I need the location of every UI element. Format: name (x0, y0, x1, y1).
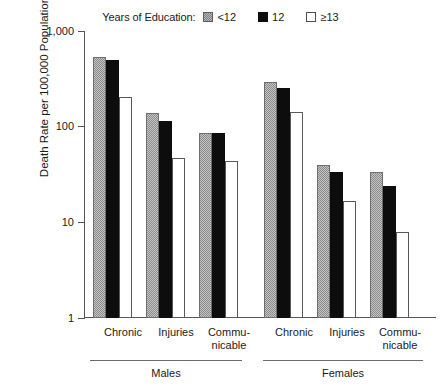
legend-title: Years of Education: (102, 11, 195, 23)
bar-males-injuries-12 (159, 121, 172, 318)
bar-males-chronic-lt12 (93, 57, 106, 318)
bar-females-communicable-12 (383, 186, 396, 318)
bar-males-chronic-gte13 (119, 97, 132, 318)
plot-area (84, 31, 436, 318)
legend-label-lt12: <12 (217, 11, 236, 23)
group-rule-females (263, 360, 423, 361)
bar-females-chronic-12 (277, 88, 290, 318)
y-axis-title: Death Rate per 100,000 Population (38, 0, 50, 217)
legend-label-12: 12 (272, 11, 284, 23)
x-label-females-communicable: Commu- nicable (361, 326, 439, 351)
bar-males-communicable-12 (212, 133, 225, 318)
y-axis: 1,000 100 10 1 Death Rate per 100,000 Po… (0, 31, 84, 319)
group-rule-males (90, 360, 242, 361)
bar-males-injuries-lt12 (146, 113, 159, 318)
bar-females-injuries-gte13 (343, 201, 356, 318)
y-tick-label-10: 10 (62, 216, 74, 228)
legend: Years of Education: <12 12 ≥13 (0, 8, 441, 26)
group-label-females: Females (263, 367, 423, 379)
bar-males-chronic-12 (106, 60, 119, 318)
bar-males-communicable-gte13 (225, 161, 238, 318)
legend-label-gte13: ≥13 (320, 11, 338, 23)
bar-females-injuries-12 (330, 172, 343, 318)
legend-entry-12: 12 (258, 11, 284, 23)
bar-males-injuries-gte13 (172, 158, 185, 318)
group-label-males: Males (90, 367, 242, 379)
legend-entry-gte13: ≥13 (306, 11, 338, 23)
y-tick-label-1000: 1,000 (46, 25, 74, 37)
legend-entry-lt12: <12 (203, 11, 236, 23)
bar-females-communicable-lt12 (370, 172, 383, 318)
bar-females-chronic-gte13 (290, 112, 303, 318)
bar-females-communicable-gte13 (396, 232, 409, 318)
y-axis-line (84, 31, 85, 319)
y-tick-label-1: 1 (68, 312, 74, 324)
black-swatch-icon (258, 12, 268, 22)
bar-females-injuries-lt12 (317, 165, 330, 318)
y-tick-label-100: 100 (56, 120, 74, 132)
bar-males-communicable-lt12 (199, 133, 212, 318)
gray-swatch-icon (203, 12, 213, 22)
bar-females-chronic-lt12 (264, 82, 277, 318)
white-swatch-icon (306, 12, 316, 22)
